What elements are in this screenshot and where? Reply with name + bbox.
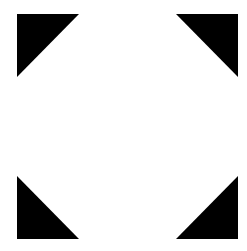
corner-top-left-icon — [17, 14, 79, 77]
corner-bottom-left-icon — [17, 176, 79, 239]
corner-bottom-right-icon — [176, 176, 238, 239]
expand-icon-graphic — [0, 0, 247, 251]
corner-top-right-icon — [176, 14, 238, 77]
fullscreen-expand-icon[interactable]: Expand to fullscreen — [0, 0, 247, 251]
